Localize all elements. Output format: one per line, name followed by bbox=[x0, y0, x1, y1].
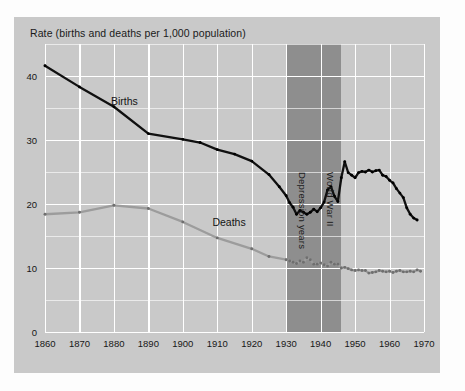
series-lines bbox=[45, 44, 424, 332]
x-tick-label: 1910 bbox=[207, 338, 228, 349]
data-point bbox=[285, 258, 288, 261]
data-point bbox=[319, 206, 322, 209]
data-point bbox=[340, 176, 343, 179]
data-point bbox=[316, 210, 319, 213]
data-point bbox=[78, 211, 81, 214]
data-point bbox=[378, 169, 381, 172]
data-point bbox=[305, 256, 308, 259]
data-point bbox=[288, 260, 291, 263]
band-label-1: World War II bbox=[325, 172, 336, 227]
data-point bbox=[357, 171, 360, 174]
data-point bbox=[361, 269, 364, 272]
data-point bbox=[299, 260, 302, 263]
data-point bbox=[367, 169, 370, 172]
data-point bbox=[405, 206, 408, 209]
data-point bbox=[347, 171, 350, 174]
data-point bbox=[316, 263, 319, 266]
chart-title: Rate (births and deaths per 1,000 popula… bbox=[30, 27, 246, 39]
data-point bbox=[312, 263, 315, 266]
data-point bbox=[416, 219, 419, 222]
data-point bbox=[309, 211, 312, 214]
y-tick-label: 30 bbox=[26, 135, 37, 146]
data-point bbox=[395, 187, 398, 190]
data-point bbox=[412, 217, 415, 220]
data-point bbox=[216, 148, 219, 151]
data-point bbox=[181, 138, 184, 141]
data-point bbox=[216, 236, 219, 239]
data-point bbox=[347, 267, 350, 270]
data-point bbox=[336, 263, 339, 266]
data-point bbox=[416, 268, 419, 271]
data-point bbox=[371, 171, 374, 174]
x-tick-label: 1940 bbox=[310, 338, 331, 349]
data-point bbox=[288, 201, 291, 204]
data-point bbox=[367, 272, 370, 275]
data-point bbox=[357, 268, 360, 271]
data-point bbox=[268, 173, 271, 176]
data-point bbox=[233, 153, 236, 156]
data-point bbox=[323, 263, 326, 266]
data-point bbox=[292, 261, 295, 264]
data-point bbox=[374, 169, 377, 172]
data-point bbox=[398, 269, 401, 272]
series-label-births: Births bbox=[111, 95, 138, 107]
data-point bbox=[343, 266, 346, 269]
data-point bbox=[378, 269, 381, 272]
data-point bbox=[350, 174, 353, 177]
data-point bbox=[374, 270, 377, 273]
x-tick-label: 1890 bbox=[138, 338, 159, 349]
gridline-horizontal bbox=[45, 332, 424, 333]
x-tick-label: 1900 bbox=[172, 338, 193, 349]
band-label-0: Depression years bbox=[297, 172, 308, 249]
data-point bbox=[285, 194, 288, 197]
data-point bbox=[312, 208, 315, 211]
data-point bbox=[354, 176, 357, 179]
data-point bbox=[381, 174, 384, 177]
data-point bbox=[402, 270, 405, 273]
chart-card: Rate (births and deaths per 1,000 popula… bbox=[14, 17, 440, 373]
x-tick-label: 1860 bbox=[34, 338, 55, 349]
data-point bbox=[44, 213, 47, 216]
data-point bbox=[319, 261, 322, 264]
x-tick-label: 1920 bbox=[241, 338, 262, 349]
data-point bbox=[278, 185, 281, 188]
data-point bbox=[409, 213, 412, 216]
data-point bbox=[250, 247, 253, 250]
data-point bbox=[250, 160, 253, 163]
data-point bbox=[371, 271, 374, 274]
data-point bbox=[361, 170, 364, 173]
gridline-vertical bbox=[424, 44, 425, 332]
data-point bbox=[388, 179, 391, 182]
data-point bbox=[112, 204, 115, 207]
data-point bbox=[402, 196, 405, 199]
series-label-deaths: Deaths bbox=[212, 216, 245, 228]
y-tick-label: 20 bbox=[26, 199, 37, 210]
data-point bbox=[147, 132, 150, 135]
data-point bbox=[395, 270, 398, 273]
data-point bbox=[385, 175, 388, 178]
data-point bbox=[385, 270, 388, 273]
y-tick-label: 0 bbox=[32, 327, 37, 338]
data-point bbox=[354, 269, 357, 272]
data-point bbox=[302, 261, 305, 264]
data-point bbox=[309, 258, 312, 261]
data-point bbox=[44, 64, 47, 67]
data-point bbox=[409, 270, 412, 273]
data-point bbox=[292, 206, 295, 209]
data-point bbox=[147, 207, 150, 210]
figure-root: Rate (births and deaths per 1,000 popula… bbox=[0, 0, 465, 391]
data-point bbox=[364, 171, 367, 174]
x-tick-label: 1880 bbox=[103, 338, 124, 349]
data-point bbox=[199, 141, 202, 144]
data-point bbox=[364, 269, 367, 272]
data-point bbox=[333, 263, 336, 266]
data-point bbox=[268, 255, 271, 258]
y-tick-label: 10 bbox=[26, 263, 37, 274]
data-point bbox=[181, 220, 184, 223]
y-tick-label: 40 bbox=[26, 71, 37, 82]
x-tick-label: 1870 bbox=[69, 338, 90, 349]
data-point bbox=[336, 200, 339, 203]
data-point bbox=[326, 265, 329, 268]
data-point bbox=[381, 270, 384, 273]
data-point bbox=[340, 267, 343, 270]
